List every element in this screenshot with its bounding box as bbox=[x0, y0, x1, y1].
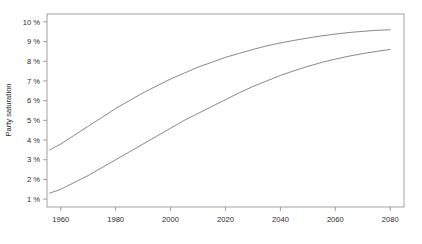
x-tick-label: 2080 bbox=[382, 215, 399, 224]
y-tick-label: 6 % bbox=[27, 96, 40, 105]
x-tick-label: 1980 bbox=[107, 215, 124, 224]
y-tick-label: 2 % bbox=[27, 175, 40, 184]
y-tick-label: 7 % bbox=[27, 77, 40, 86]
x-tick-label: 2040 bbox=[272, 215, 289, 224]
y-tick-label: 3 % bbox=[27, 155, 40, 164]
y-tick-label: 4 % bbox=[27, 136, 40, 145]
y-axis-title: Party saturation bbox=[4, 83, 13, 136]
y-tick-label: 10 % bbox=[23, 18, 41, 27]
y-tick-label: 9 % bbox=[27, 37, 40, 46]
x-tick-label: 2060 bbox=[327, 215, 344, 224]
y-tick-label: 8 % bbox=[27, 57, 40, 66]
party-saturation-line-chart: 1 %2 %3 %4 %5 %6 %7 %8 %9 %10 % 19601980… bbox=[0, 0, 422, 244]
y-tick-label: 5 % bbox=[27, 116, 40, 125]
x-tick-label: 2000 bbox=[162, 215, 179, 224]
chart-container: 1 %2 %3 %4 %5 %6 %7 %8 %9 %10 % 19601980… bbox=[0, 0, 422, 244]
y-tick-label: 1 % bbox=[27, 195, 40, 204]
x-tick-label: 1960 bbox=[52, 215, 69, 224]
x-tick-label: 2020 bbox=[217, 215, 234, 224]
